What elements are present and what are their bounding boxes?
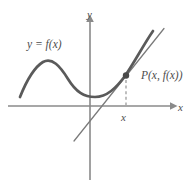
curve-label: y = f(x) — [27, 39, 62, 51]
x-tick-label: x — [121, 112, 126, 123]
point-p-label: P(x, f(x)) — [141, 70, 183, 82]
y-axis-label: y — [87, 9, 92, 20]
x-axis-label: x — [178, 102, 183, 113]
point-p-marker — [123, 72, 129, 78]
x-axis — [8, 102, 178, 110]
x-axis-arrowhead — [170, 102, 178, 110]
figure-container: y = f(x) P(x, f(x)) y x x — [0, 0, 192, 183]
tangent-line-figure — [0, 0, 192, 183]
